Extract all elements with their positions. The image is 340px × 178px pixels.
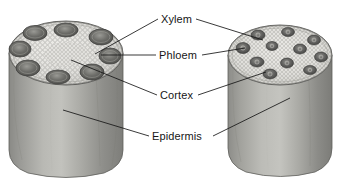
label-epidermis: Epidermis (152, 130, 202, 142)
label-xylem: Xylem (161, 13, 192, 25)
label-phloem: Phloem (159, 49, 197, 61)
label-cortex: Cortex (160, 89, 193, 101)
dicot-stem-cylinder (9, 21, 123, 178)
figure-canvas: Xylem Phloem Cortex Epidermis (0, 0, 340, 178)
monocot-stem-cylinder (228, 25, 332, 177)
